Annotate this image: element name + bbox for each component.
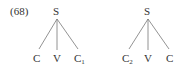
leaf-label: C <box>33 52 40 64</box>
leaf-node: V <box>53 53 61 68</box>
leaf-label: C <box>166 52 173 64</box>
leaf-label: V <box>53 52 61 64</box>
root-node: S <box>53 6 59 17</box>
leaf-node: C2 <box>122 53 133 68</box>
branch-line <box>129 19 148 49</box>
leaf-subscript: 1 <box>81 58 85 66</box>
leaf-node: C1 <box>74 53 85 68</box>
tree-branches <box>0 0 188 68</box>
leaf-node: C <box>166 53 173 68</box>
branch-line <box>39 19 57 49</box>
branch-line <box>148 19 169 49</box>
leaf-node: C <box>33 53 40 68</box>
leaf-node: V <box>144 53 152 68</box>
leaf-subscript: 2 <box>129 58 133 66</box>
branch-line <box>57 19 78 49</box>
root-node: S <box>144 6 150 17</box>
leaf-label: V <box>144 52 152 64</box>
